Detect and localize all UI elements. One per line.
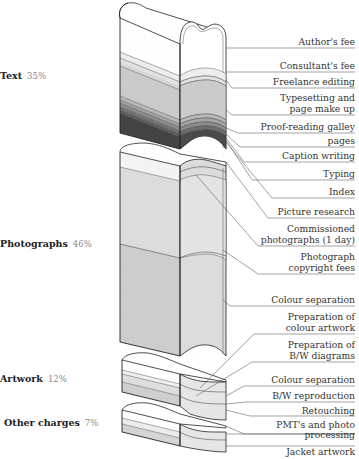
- label-colour-separation-artwork: Colour separation: [271, 374, 355, 385]
- category-photographs: Photographs 46%: [0, 238, 92, 249]
- label-preparation-colour-artwork: Preparation of colour artwork: [286, 311, 355, 333]
- label-pages: pages: [328, 135, 355, 146]
- category-percent: 7%: [85, 418, 99, 428]
- label-caption-writing: Caption writing: [282, 150, 355, 161]
- label-preparation-bw-diagrams: Preparation of B/W diagrams: [288, 339, 355, 361]
- label-typing: Typing: [323, 168, 355, 179]
- category-other-charges: Other charges 7%: [4, 417, 98, 428]
- category-name: Text: [0, 70, 22, 81]
- text-slice: [119, 3, 226, 149]
- label-consultants-fee: Consultant's fee: [280, 60, 355, 71]
- label-authors-fee: Author's fee: [298, 36, 355, 47]
- label-typesetting: Typesetting and page make up: [280, 92, 355, 114]
- label-commissioned-photographs: Commissioned photographs (1 day): [261, 223, 355, 245]
- label-jacket-artwork: Jacket artwork: [286, 446, 355, 457]
- category-percent: 35%: [27, 71, 46, 81]
- label-colour-separation-photos: Colour separation: [271, 294, 355, 305]
- category-text: Text 35%: [0, 70, 46, 81]
- category-percent: 12%: [48, 374, 67, 384]
- label-bw-reproduction: B/W reproduction: [272, 390, 355, 401]
- category-artwork: Artwork 12%: [0, 373, 67, 384]
- category-name: Other charges: [4, 417, 80, 428]
- category-percent: 46%: [73, 239, 92, 249]
- photographs-slice: [120, 143, 226, 356]
- label-picture-research: Picture research: [277, 206, 355, 217]
- label-freelance-editing: Freelance editing: [273, 76, 355, 87]
- label-index: Index: [329, 186, 355, 197]
- label-photograph-copyright-fees: Photograph copyright fees: [289, 251, 355, 273]
- label-retouching: Retouching: [302, 405, 355, 416]
- label-pmts-photo-processing: PMT's and photo processing: [276, 420, 355, 440]
- category-name: Artwork: [0, 373, 43, 384]
- category-name: Photographs: [0, 238, 68, 249]
- label-proof-reading-galley: Proof-reading galley: [260, 121, 355, 132]
